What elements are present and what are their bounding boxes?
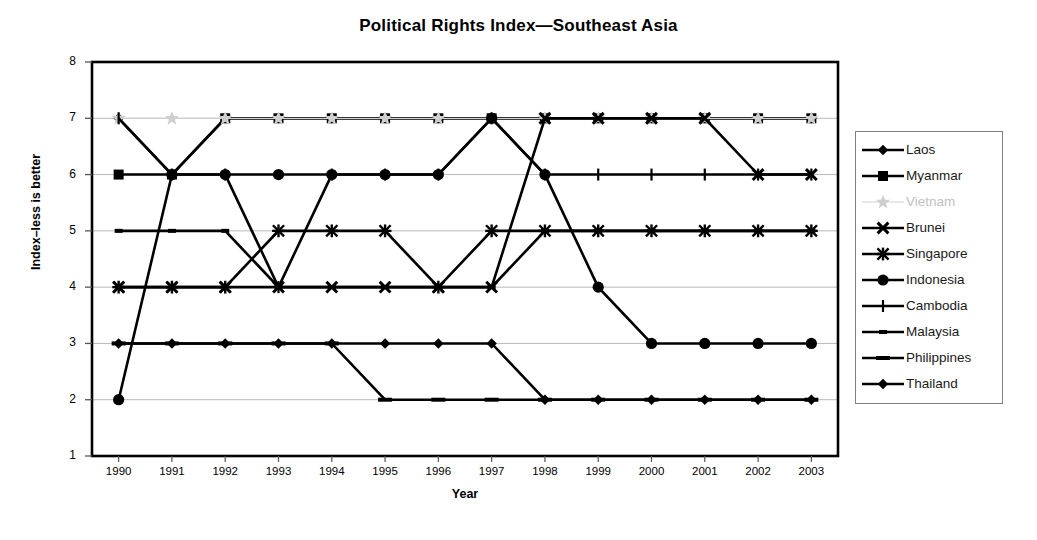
x-tick-label: 1995 [355,465,415,477]
series-cambodia [119,112,812,293]
legend-marker-x-icon [860,217,906,239]
data-point-diamond [380,338,390,348]
data-point-circle [877,274,888,285]
data-point-circle [699,338,710,349]
y-tick-label: 4 [50,279,76,293]
legend-item-label: Brunei [906,221,945,235]
data-point-circle [646,338,657,349]
data-point-square [114,170,124,180]
x-tick-label: 1996 [408,465,468,477]
series-line [119,118,812,287]
data-point-dash-small [701,229,709,233]
data-point-circle [806,338,817,349]
x-tick-label: 1997 [462,465,522,477]
data-point-diamond [593,395,603,405]
data-point-diamond [113,338,123,348]
chart-page: Political Rights Index—Southeast Asia In… [0,0,1037,540]
legend-item-laos[interactable]: Laos [856,137,1002,163]
data-point-diamond [646,395,656,405]
data-point-diamond [700,395,710,405]
series-line [119,343,812,399]
legend-marker-star-light-icon [860,191,906,213]
legend-marker-plus-icon [860,295,906,317]
data-point-dash [485,398,499,402]
data-point-dash-small [381,285,389,289]
data-point-dash-small [648,229,656,233]
y-tick-label: 7 [50,110,76,124]
legend-marker-dash-small-icon [860,321,906,343]
legend-marker-diamond-icon [860,139,906,161]
data-point-circle [273,169,284,180]
x-tick-label: 2002 [728,465,788,477]
data-point-circle [113,394,124,405]
data-point-dash-small [754,229,762,233]
series-line [119,231,812,287]
series-line [119,343,812,399]
data-point-diamond [167,338,177,348]
data-point-dash-small [488,285,496,289]
data-point-diamond [878,379,888,389]
legend-item-indonesia[interactable]: Indonesia [856,267,1002,293]
legend-item-myanmar[interactable]: Myanmar [856,163,1002,189]
x-tick-label: 1990 [89,465,149,477]
x-tick-label: 1993 [249,465,309,477]
data-point-dash [431,398,445,402]
data-point-dash-small [275,285,283,289]
legend-item-brunei[interactable]: Brunei [856,215,1002,241]
legend-item-label: Philippines [906,351,971,365]
legend: LaosMyanmarVietnamBruneiSingaporeIndones… [855,131,1003,404]
legend-marker-dash-icon [860,347,906,369]
data-point-dash-small [594,229,602,233]
legend-item-label: Myanmar [906,169,962,183]
data-point-dash-small [221,229,229,233]
x-tick-label: 1999 [568,465,628,477]
legend-marker-asterisk-icon [860,243,906,265]
legend-marker-circle-icon [860,269,906,291]
legend-item-singapore[interactable]: Singapore [856,241,1002,267]
data-point-dash-small [115,229,123,233]
x-tick-label: 1991 [142,465,202,477]
y-tick-label: 6 [50,167,76,181]
legend-item-label: Malaysia [906,325,959,339]
y-tick-label: 3 [50,335,76,349]
series-singapore [112,224,818,293]
series-philippines [112,341,819,401]
data-point-diamond [753,395,763,405]
legend-item-label: Thailand [906,377,958,391]
x-tick-label: 2001 [675,465,735,477]
data-point-dash-small [879,330,887,334]
data-point-dash-small [168,229,176,233]
data-point-dash [378,398,392,402]
legend-item-vietnam[interactable]: Vietnam [856,189,1002,215]
data-point-diamond [806,395,816,405]
data-point-circle [752,338,763,349]
legend-item-philippines[interactable]: Philippines [856,345,1002,371]
legend-item-cambodia[interactable]: Cambodia [856,293,1002,319]
legend-item-label: Indonesia [906,273,965,287]
x-tick-label: 2000 [622,465,682,477]
legend-marker-diamond-icon [860,373,906,395]
legend-item-label: Laos [906,143,935,157]
data-point-diamond [273,338,283,348]
y-tick-label: 1 [50,448,76,462]
data-point-diamond [220,338,230,348]
data-point-square [878,171,888,181]
x-tick-label: 1994 [302,465,362,477]
data-point-dash-small [434,285,442,289]
series-vietnam [112,111,819,124]
data-point-dash-small [541,229,549,233]
series-thailand [113,338,816,405]
legend-item-malaysia[interactable]: Malaysia [856,319,1002,345]
data-point-circle [593,282,604,293]
data-point-dash [876,356,890,360]
x-tick-label: 1998 [515,465,575,477]
legend-item-thailand[interactable]: Thailand [856,371,1002,397]
y-tick-label: 2 [50,392,76,406]
x-tick-label: 2003 [781,465,841,477]
data-point-diamond [878,145,888,155]
x-tick-label: 1992 [195,465,255,477]
legend-item-label: Cambodia [906,299,968,313]
series-line [119,118,812,287]
y-tick-label: 8 [50,54,76,68]
data-point-diamond [433,338,443,348]
